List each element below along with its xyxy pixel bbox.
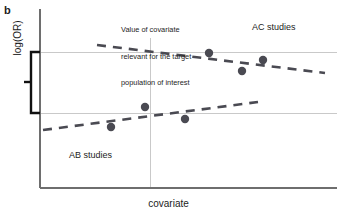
- covariate-note-line-3: population of interest: [121, 79, 191, 88]
- ac-data-point: [205, 49, 213, 57]
- bracket-shape: [31, 52, 40, 113]
- ac-data-point: [259, 56, 267, 64]
- panel-label: b: [4, 4, 11, 17]
- ab-studies-label: AB studies: [69, 150, 112, 161]
- covariate-value-annotation: Value of covariate relevant for the targ…: [121, 9, 191, 105]
- x-axis-label: covariate: [0, 198, 337, 210]
- ac-studies-label: AC studies: [252, 22, 296, 33]
- figure-panel-b: b log(OR) covariate Value of covariate r…: [0, 0, 337, 213]
- ac-data-point: [238, 67, 246, 75]
- effect-range-bracket: [24, 52, 40, 113]
- ab-data-point: [107, 123, 115, 131]
- covariate-note-line-2: relevant for the target: [121, 53, 191, 62]
- y-axis-label: log(OR): [12, 8, 24, 68]
- ab-data-point: [181, 115, 189, 123]
- covariate-note-line-1: Value of covariate: [121, 26, 191, 35]
